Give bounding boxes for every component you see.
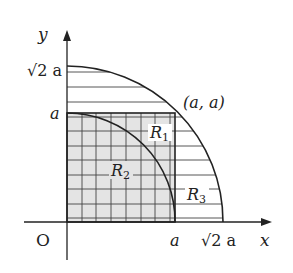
x-tick-a: a (170, 231, 180, 250)
y-axis-label: y (37, 24, 48, 44)
x-tick-sqrt2a: √2 a (201, 231, 236, 250)
y-tick-sqrt2a: √2 a (27, 61, 62, 80)
origin-label: O (36, 230, 50, 250)
point-label: (a, a) (183, 93, 225, 112)
x-axis-label: x (260, 230, 270, 250)
x-axis-arrow-icon (261, 218, 272, 226)
y-axis-arrow-icon (63, 30, 71, 41)
y-tick-a: a (50, 104, 60, 123)
diagram-canvas: y x O √2 a a a √2 a (a, a) R1 R2 R3 (0, 0, 293, 273)
